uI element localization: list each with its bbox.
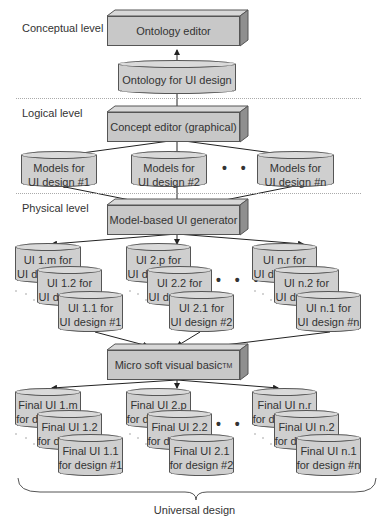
universal-design-caption: Universal design [0, 504, 389, 516]
models-cylinder-n: Models forUI design #n [257, 151, 334, 187]
conceptual-level-label: Conceptual level [22, 22, 103, 34]
ui-cylinder-11: UI 1.1 forUI design #1 [58, 291, 123, 332]
ontology-store-cylinder: Ontology for UI design [118, 60, 236, 94]
ui-cylinder-n1: UI n.1 forUI design #n [296, 291, 361, 332]
logical-level-label: Logical level [22, 107, 83, 119]
ontology-editor-label: Ontology editor [107, 16, 240, 46]
ontology-editor-box: Ontology editor [107, 10, 240, 40]
visual-basic-label: Micro soft visual basicTM [107, 350, 240, 380]
concept-editor-box: Concept editor (graphical) [107, 106, 240, 136]
level-separator [16, 193, 361, 194]
visual-basic-box: Micro soft visual basicTM [107, 344, 240, 374]
level-separator [16, 98, 361, 99]
concept-editor-label: Concept editor (graphical) [107, 112, 240, 142]
ui-generator-label: Model-based UI generator [107, 205, 240, 235]
models-cylinder-2: Models forUI design #2 [131, 151, 207, 187]
ui-generator-box: Model-based UI generator [107, 199, 240, 229]
ontology-store-label: Ontology for UI design [118, 73, 236, 87]
ui-cylinder-21: UI 2.1 forUI design #2 [169, 291, 234, 332]
physical-level-label: Physical level [22, 202, 89, 214]
final-ui-cylinder-21: Final UI 2.1for design #2 [169, 434, 234, 476]
models-cylinder-1: Models forUI design #1 [21, 151, 97, 187]
final-ui-cylinder-n1: Final UI n.1for design #n [296, 434, 361, 476]
final-ui-cylinder-11: Final UI 1.1for design #1 [58, 434, 123, 476]
